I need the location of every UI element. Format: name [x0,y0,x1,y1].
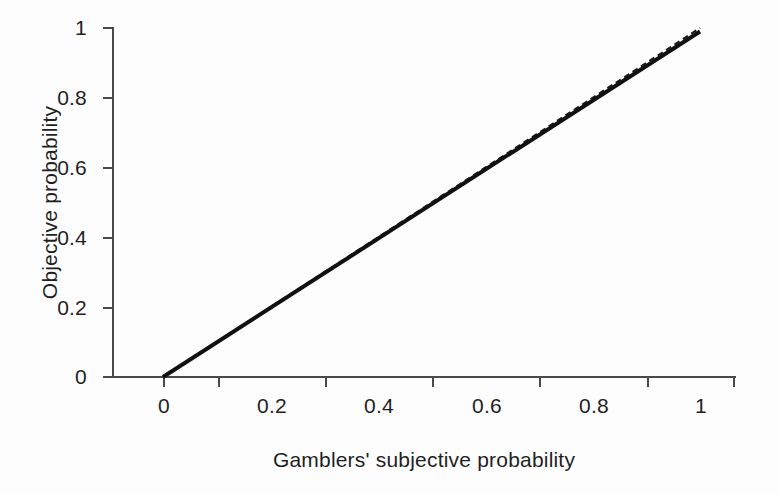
y-axis-title: Objective probability [34,28,66,377]
x-axis-tick-label: 0.4 [364,395,394,416]
x-axis-tick [432,377,434,387]
y-axis-tick [103,167,113,169]
x-axis-tick-label: 0.6 [472,395,502,416]
x-axis-tick-label: 0 [158,395,170,416]
y-axis-tick [103,376,113,378]
y-axis-tick-label: 1 [75,17,87,38]
x-axis-tick [539,377,541,387]
x-axis-tick [218,377,220,387]
x-axis-tick [733,377,735,387]
series-fitted-relationship [163,32,700,378]
x-axis-tick [647,377,649,387]
y-axis-tick [103,97,113,99]
x-axis-tick [325,377,327,387]
chart-plot-lines [0,0,779,494]
x-axis-tick-label: 1 [695,395,707,416]
y-axis-spine [112,27,114,378]
y-axis-tick [103,307,113,309]
x-axis-tick-label: 0.2 [257,395,287,416]
y-axis-tick [103,27,113,29]
x-axis-title: Gamblers' subjective probability [113,448,735,472]
x-axis-spine [112,376,736,378]
series-identity-line [163,28,700,377]
y-axis-tick [103,237,113,239]
chart-figure: 1 0.8 0.6 0.4 0.2 0 0 0.2 0.4 0.6 0.8 1 … [0,0,779,494]
x-axis-tick-label: 0.8 [579,395,609,416]
x-axis-tick [163,377,165,387]
y-axis-tick-label: 0 [75,366,87,387]
